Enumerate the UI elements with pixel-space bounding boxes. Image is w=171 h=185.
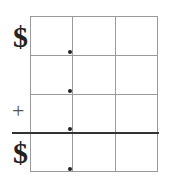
decimal-point bbox=[68, 127, 72, 131]
answer-dollar-sign: $ bbox=[13, 136, 28, 170]
plus-sign: + bbox=[12, 98, 24, 124]
decimal-point bbox=[68, 50, 72, 54]
decimal-point bbox=[68, 167, 72, 171]
decimal-point bbox=[68, 89, 72, 93]
dollar-sign: $ bbox=[13, 20, 28, 54]
sum-line bbox=[12, 132, 159, 134]
grid-row-divider bbox=[30, 55, 158, 56]
grid-row-divider bbox=[30, 94, 158, 95]
